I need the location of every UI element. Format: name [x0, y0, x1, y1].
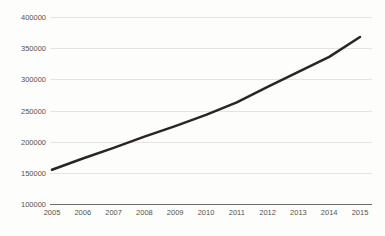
y-axis-tick-label: 300000 — [0, 75, 46, 84]
y-axis-tick-label: 250000 — [0, 106, 46, 115]
y-axis-tick-label: 200000 — [0, 137, 46, 146]
y-axis-tick-label: 150000 — [0, 168, 46, 177]
y-axis-tick-label: 400000 — [0, 13, 46, 22]
x-axis-tick-label: 2015 — [340, 208, 380, 217]
y-axis-tick-label: 350000 — [0, 44, 46, 53]
series-line-svg — [50, 17, 372, 204]
plot-area — [50, 17, 372, 204]
line-chart-figure: 4000003500003000002500002000001500001000… — [0, 0, 385, 236]
x-axis-baseline — [50, 204, 372, 205]
series-line — [52, 37, 360, 170]
